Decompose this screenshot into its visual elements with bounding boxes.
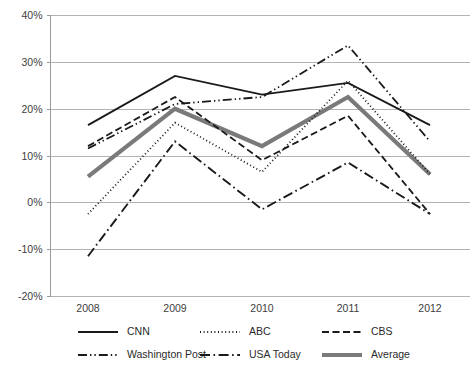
y-axis-tick-label: 20% bbox=[21, 103, 42, 115]
y-axis-tick-label: 10% bbox=[21, 150, 42, 162]
x-axis-tick-label: 2008 bbox=[76, 302, 100, 314]
x-axis-tick-label: 2011 bbox=[337, 302, 360, 314]
y-axis-tick-label: 40% bbox=[21, 9, 42, 21]
x-axis-tick-label: 2009 bbox=[163, 302, 187, 314]
legend-label-usa-today: USA Today bbox=[249, 348, 302, 360]
y-axis-tick-label: -20% bbox=[18, 290, 43, 302]
legend-label-cbs: CBS bbox=[371, 325, 393, 337]
chart-background bbox=[0, 0, 476, 375]
legend-label-average: Average bbox=[371, 348, 410, 360]
line-chart: 40%30%20%10%0%-10%-20% 20082009201020112… bbox=[0, 0, 476, 375]
y-axis-tick-label: -10% bbox=[18, 243, 43, 255]
x-axis-tick-label: 2010 bbox=[250, 302, 274, 314]
legend-label-abc: ABC bbox=[249, 325, 271, 337]
legend-label-cnn: CNN bbox=[127, 325, 150, 337]
chart-container: 40%30%20%10%0%-10%-20% 20082009201020112… bbox=[0, 0, 476, 375]
legend-label-washington-post: Washington Post bbox=[127, 348, 206, 360]
x-axis-tick-label: 2012 bbox=[418, 302, 442, 314]
y-axis-tick-label: 30% bbox=[21, 56, 42, 68]
y-axis-tick-label: 0% bbox=[27, 196, 42, 208]
